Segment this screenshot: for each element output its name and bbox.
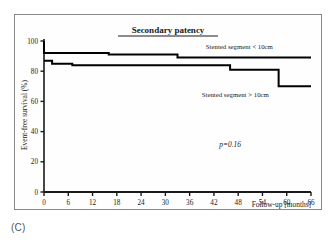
x-tick-label: 12 — [89, 199, 97, 207]
figure-panel: Secondary patency 020406080100 061218243… — [0, 0, 336, 245]
chart-title-group: Secondary patency — [118, 25, 218, 36]
axes-group — [44, 39, 311, 192]
series-label-0: Stented segment < 10cm — [206, 43, 274, 50]
x-tick-label: 36 — [186, 199, 194, 207]
y-axis-title: Event-free survival (%) — [20, 80, 29, 150]
x-tick-label: 48 — [235, 199, 243, 207]
x-tick-label: 18 — [113, 199, 121, 207]
x-axis-title: Follow-up [months] — [252, 200, 311, 209]
x-tick-label: 0 — [42, 199, 46, 207]
y-tick-label: 40 — [31, 128, 39, 136]
x-tick-label: 42 — [210, 199, 218, 207]
chart-title: Secondary patency — [132, 25, 205, 35]
y-tick-label: 80 — [31, 68, 39, 76]
panel-label: (C) — [11, 222, 25, 233]
y-axis-ticks: 020406080100 — [27, 38, 44, 197]
y-tick-label: 100 — [27, 38, 38, 46]
kaplan-meier-chart: Secondary patency 020406080100 061218243… — [15, 15, 321, 209]
y-tick-label: 20 — [31, 158, 39, 166]
x-tick-label: 30 — [162, 199, 170, 207]
p-value-annotation: p=0.16 — [218, 140, 241, 149]
x-tick-label: 6 — [66, 199, 70, 207]
y-tick-label: 0 — [34, 189, 38, 197]
chart-frame: Secondary patency 020406080100 061218243… — [14, 14, 322, 210]
y-tick-label: 60 — [31, 98, 39, 106]
series-label-1: Stented segment > 10cm — [202, 91, 270, 98]
series-step-line-1 — [44, 61, 311, 87]
x-tick-label: 24 — [137, 199, 145, 207]
